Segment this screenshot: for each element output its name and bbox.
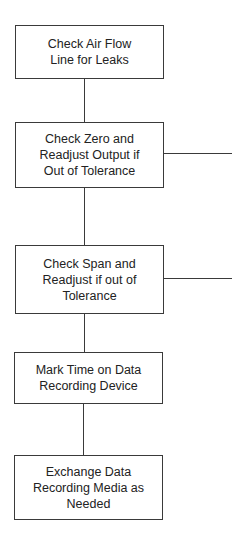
connector-2-3 (84, 188, 85, 245)
branch-line-zero (164, 153, 232, 154)
step-check-air-flow: Check Air Flow Line for Leaks (15, 25, 164, 79)
step-check-zero: Check Zero and Readjust Output if Out of… (15, 122, 164, 188)
connector-3-4 (84, 314, 85, 352)
step-label: Exchange Data Recording Media as Needed (33, 464, 144, 512)
step-label: Check Air Flow Line for Leaks (48, 36, 131, 68)
connector-4-5 (83, 404, 84, 455)
step-label: Mark Time on Data Recording Device (36, 362, 142, 394)
step-exchange-media: Exchange Data Recording Media as Needed (14, 455, 163, 520)
step-mark-time: Mark Time on Data Recording Device (14, 352, 163, 404)
step-label: Check Zero and Readjust Output if Out of… (39, 131, 139, 179)
branch-line-span (164, 278, 232, 279)
step-label: Check Span and Readjust if out of Tolera… (43, 256, 137, 304)
connector-1-2 (84, 79, 85, 122)
step-check-span: Check Span and Readjust if out of Tolera… (15, 245, 164, 314)
